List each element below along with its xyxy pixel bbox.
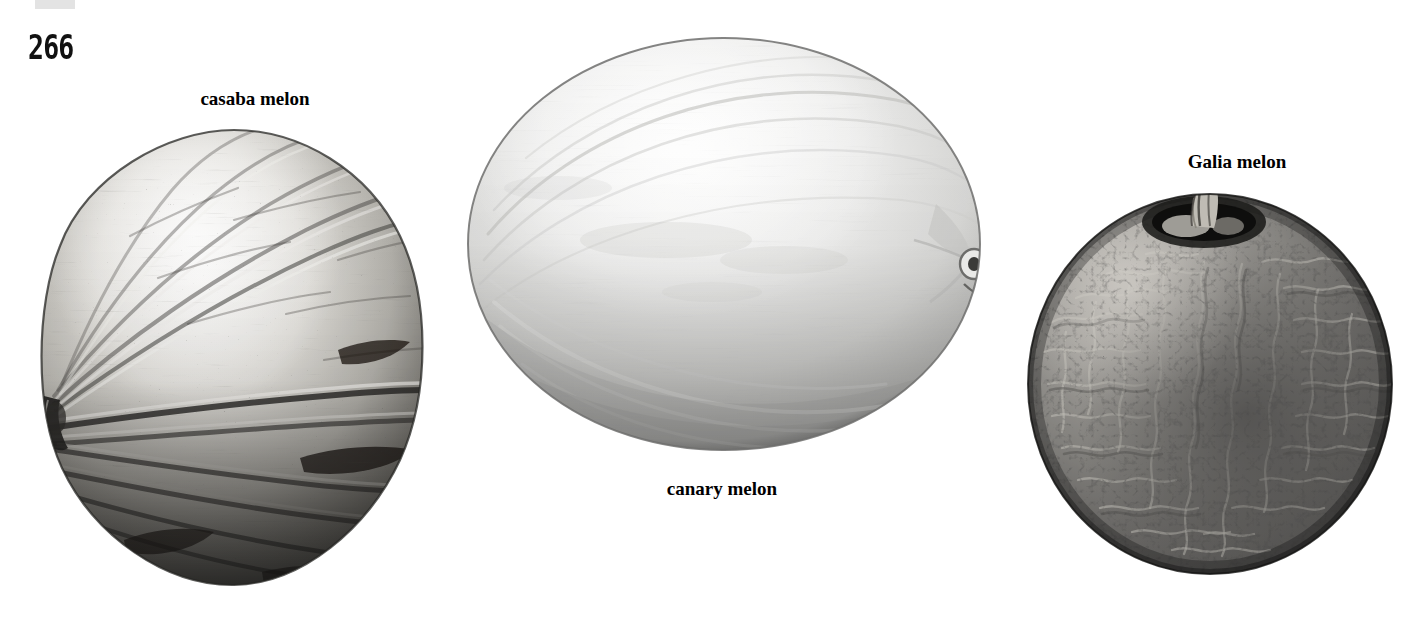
canary-melon-illustration: [466, 34, 994, 454]
casaba-melon-illustration: [38, 128, 430, 588]
casaba-melon-label: casaba melon: [200, 88, 309, 110]
galia-melon-label: Galia melon: [1188, 151, 1287, 173]
page-top-marker: [35, 0, 75, 9]
canary-melon-label: canary melon: [667, 478, 777, 500]
plate-page: 266: [0, 0, 1414, 622]
page-number: 266: [28, 30, 74, 64]
galia-melon-illustration: [1026, 192, 1394, 576]
